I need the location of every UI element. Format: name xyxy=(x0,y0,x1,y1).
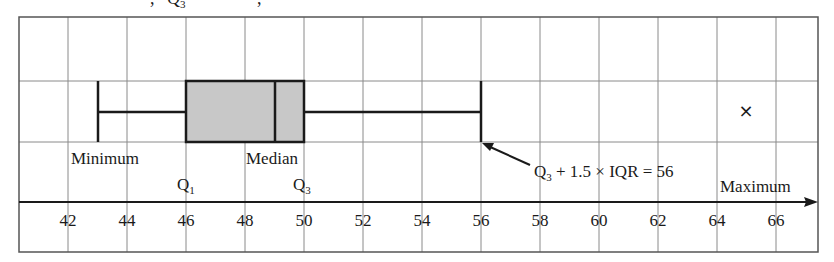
tick-label: 58 xyxy=(532,212,549,229)
q1-label-sub: 1 xyxy=(189,184,195,196)
tick-label: 62 xyxy=(650,212,667,229)
tick-label: 60 xyxy=(591,212,608,229)
tick-label: 42 xyxy=(60,212,77,229)
q3-label: Q3 xyxy=(293,176,311,196)
q3-label-main: Q xyxy=(293,175,305,194)
maximum-label: Maximum xyxy=(720,178,791,195)
fence-label: Q3 + 1.5 × IQR = 56 xyxy=(534,163,674,183)
box-plot xyxy=(98,81,481,142)
outlier-marker: × xyxy=(738,102,753,120)
axis-arrow-icon xyxy=(804,197,818,207)
fence-label-rest: + 1.5 × IQR = 56 xyxy=(552,162,674,181)
tick-label: 54 xyxy=(414,212,431,229)
median-label: Median xyxy=(246,150,298,167)
tick-label: 56 xyxy=(473,212,490,229)
tick-label: 44 xyxy=(119,212,136,229)
tick-label: 48 xyxy=(237,212,254,229)
q1-label: Q1 xyxy=(177,176,195,196)
tick-label: 46 xyxy=(178,212,195,229)
minimum-label: Minimum xyxy=(71,150,139,167)
iqr-box xyxy=(186,81,304,142)
tick-label: 64 xyxy=(709,212,726,229)
number-line-axis xyxy=(19,197,818,207)
tick-label: 66 xyxy=(768,212,785,229)
fence-label-main: Q xyxy=(534,162,546,181)
tick-label: 52 xyxy=(355,212,372,229)
q3-label-sub: 3 xyxy=(305,184,311,196)
tick-label: 50 xyxy=(296,212,313,229)
fence-annotation-arrow xyxy=(482,143,530,165)
q1-label-main: Q xyxy=(177,175,189,194)
